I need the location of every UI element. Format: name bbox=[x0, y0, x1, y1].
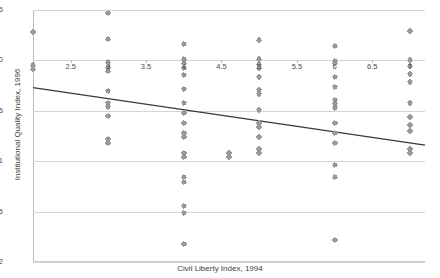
data-point bbox=[333, 175, 337, 179]
data-point bbox=[333, 131, 337, 135]
data-point bbox=[182, 73, 186, 77]
x-tick-label: 4.5 bbox=[216, 63, 226, 71]
trendline bbox=[33, 10, 425, 262]
data-point bbox=[182, 155, 186, 159]
data-point bbox=[408, 29, 412, 33]
data-point bbox=[106, 11, 110, 15]
data-point bbox=[182, 87, 186, 91]
data-point bbox=[257, 108, 261, 112]
data-point bbox=[408, 80, 412, 84]
data-point bbox=[408, 115, 412, 119]
data-point bbox=[408, 129, 412, 133]
y-tick-label: -0.5 bbox=[0, 107, 3, 115]
data-point bbox=[182, 242, 186, 246]
y-tick-label: 0 bbox=[0, 56, 3, 64]
plot-area bbox=[33, 10, 425, 262]
data-point bbox=[257, 125, 261, 129]
data-point bbox=[106, 105, 110, 109]
data-point bbox=[257, 135, 261, 139]
data-point bbox=[31, 30, 35, 34]
data-point bbox=[257, 92, 261, 96]
x-axis-label: Civil Liberty Index, 1994 bbox=[0, 264, 440, 273]
data-point bbox=[182, 204, 186, 208]
data-point bbox=[408, 123, 412, 127]
data-point bbox=[182, 180, 186, 184]
data-point bbox=[333, 141, 337, 145]
data-point bbox=[106, 37, 110, 41]
data-point bbox=[106, 114, 110, 118]
data-point bbox=[333, 85, 337, 89]
x-tick-label: 4 bbox=[182, 63, 186, 71]
x-tick-label: 5 bbox=[257, 63, 261, 71]
data-point bbox=[182, 101, 186, 105]
data-point bbox=[408, 151, 412, 155]
data-point bbox=[333, 106, 337, 110]
x-tick-label: 5.5 bbox=[292, 63, 302, 71]
data-point bbox=[31, 67, 35, 71]
data-point bbox=[257, 38, 261, 42]
data-point bbox=[227, 155, 231, 159]
data-point bbox=[333, 121, 337, 125]
x-tick-label: 6 bbox=[332, 63, 336, 71]
data-point bbox=[257, 75, 261, 79]
data-point bbox=[182, 121, 186, 125]
scatter-chart: Institutional Quality Index, 1996 0.50-0… bbox=[0, 0, 440, 278]
data-point bbox=[333, 163, 337, 167]
data-point bbox=[182, 211, 186, 215]
x-tick-label: 2.5 bbox=[65, 63, 75, 71]
data-point bbox=[333, 44, 337, 48]
y-tick-label: 0.5 bbox=[0, 6, 3, 14]
x-tick-label: 6.5 bbox=[367, 63, 377, 71]
data-point bbox=[182, 42, 186, 46]
x-tick-label: 3.5 bbox=[141, 63, 151, 71]
y-axis-label: Institutional Quality Index, 1996 bbox=[13, 35, 22, 215]
data-point bbox=[333, 238, 337, 242]
data-point bbox=[408, 72, 412, 76]
data-point bbox=[106, 89, 110, 93]
y-tick-label: -1.5 bbox=[0, 208, 3, 216]
data-point bbox=[182, 135, 186, 139]
x-tick-label: 7 bbox=[408, 63, 412, 71]
data-point bbox=[408, 101, 412, 105]
x-tick-label: 3 bbox=[106, 63, 110, 71]
data-point bbox=[257, 151, 261, 155]
data-point bbox=[106, 141, 110, 145]
gridline-y bbox=[33, 262, 425, 263]
data-point bbox=[182, 111, 186, 115]
y-tick-label: -1 bbox=[0, 157, 3, 165]
data-point bbox=[333, 75, 337, 79]
